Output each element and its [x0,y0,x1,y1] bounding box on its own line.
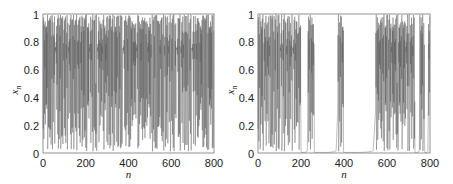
left-chart-chaotic: 0 0.2 0.4 0.6 0.8 1 0 200 400 600 800 n … [0,0,230,184]
svg-text:1: 1 [248,9,254,21]
x-axis-label: n [341,168,347,180]
svg-text:0: 0 [33,148,39,160]
svg-text:1: 1 [33,9,39,21]
plot-area [258,14,430,152]
y-axis-label: xn [8,86,23,96]
svg-text:0.6: 0.6 [24,64,39,76]
x-tick-labels: 0 200 400 600 800 [40,157,223,169]
svg-text:0: 0 [40,157,46,169]
svg-text:200: 200 [292,157,310,169]
svg-text:0.6: 0.6 [239,64,254,76]
svg-text:0.4: 0.4 [239,92,254,104]
series-line [258,14,430,152]
svg-text:600: 600 [162,157,180,169]
svg-text:0.2: 0.2 [24,120,39,132]
svg-text:xn: xn [8,86,23,96]
svg-text:0.8: 0.8 [239,36,254,48]
x-axis-label: n [126,168,132,180]
svg-text:600: 600 [378,157,396,169]
svg-text:0.2: 0.2 [239,120,254,132]
svg-text:xn: xn [224,86,239,96]
svg-text:0.4: 0.4 [24,92,39,104]
right-chart-intermittent: 0 0.2 0.4 0.6 0.8 1 0 200 400 600 800 n … [215,0,453,184]
y-tick-labels: 0 0.2 0.4 0.6 0.8 1 [24,9,39,160]
svg-text:800: 800 [421,157,439,169]
y-axis-label: xn [224,86,239,96]
y-tick-labels: 0 0.2 0.4 0.6 0.8 1 [239,9,254,160]
svg-text:0: 0 [255,157,261,169]
plot-area [43,14,214,151]
svg-text:200: 200 [77,157,95,169]
x-tick-labels: 0 200 400 600 800 [255,157,439,169]
series-line [43,14,214,151]
svg-text:0.8: 0.8 [24,36,39,48]
svg-text:0: 0 [248,148,254,160]
